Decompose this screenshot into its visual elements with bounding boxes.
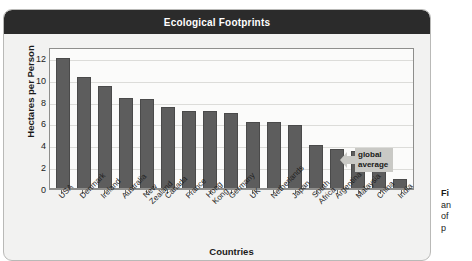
caption-title: Fi [441, 188, 472, 200]
bar-denmark [77, 77, 91, 190]
chart-body: Hectares per Person 024681012 USADenmark… [4, 34, 430, 261]
y-axis-tick-label: 10 [36, 76, 46, 86]
y-axis-tick-label: 4 [41, 141, 46, 151]
bar-australia [119, 98, 133, 189]
callout-line-1: global [358, 150, 388, 160]
bar-netherlands [267, 122, 281, 189]
global-average-callout: global average [340, 147, 393, 173]
y-axis-tick-labels: 024681012 [28, 48, 46, 190]
figure-caption: Fi an of p [441, 188, 472, 234]
chart-panel: Ecological Footprints Hectares per Perso… [3, 9, 431, 261]
y-axis-tick-label: 0 [41, 185, 46, 195]
x-axis-tick-labels: USADenmarkIrelandAustraliaNewZealandCana… [49, 194, 414, 244]
bar-usa [56, 58, 70, 189]
chart-title-bar: Ecological Footprints [4, 10, 430, 34]
bar-germany [224, 113, 238, 189]
caption-line-3: p [441, 223, 472, 235]
caption-line-1: an [441, 200, 472, 212]
caption-line-2: of [441, 211, 472, 223]
left-arrow-icon [340, 147, 355, 173]
global-average-label: global average [355, 148, 393, 172]
x-axis-title: Countries [49, 246, 414, 257]
chart-title: Ecological Footprints [164, 17, 270, 28]
bar-hong-kong [203, 111, 217, 189]
y-axis-tick-label: 2 [41, 163, 46, 173]
y-axis-tick-label: 12 [36, 54, 46, 64]
callout-line-2: average [358, 160, 388, 170]
y-axis-tick-label: 6 [41, 119, 46, 129]
y-axis-tick-label: 8 [41, 98, 46, 108]
